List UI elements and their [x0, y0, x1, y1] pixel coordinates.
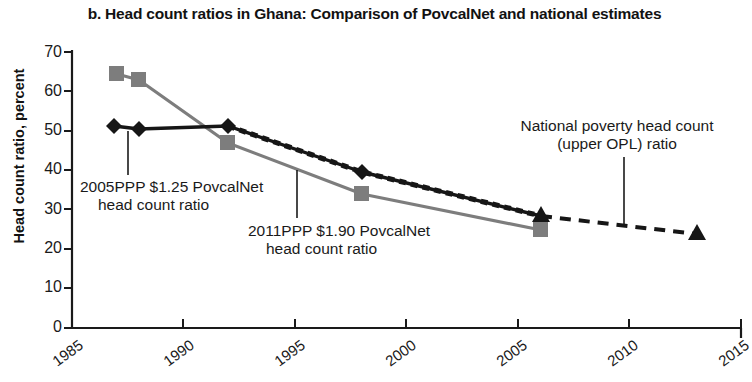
axis-lines — [72, 50, 741, 338]
data-point-marker — [106, 118, 122, 134]
y-axis-ticks — [64, 52, 72, 328]
data-point-marker — [533, 222, 548, 237]
x-axis-ticks — [72, 319, 741, 328]
data-point-marker — [220, 118, 236, 134]
series-national-poverty — [106, 118, 541, 216]
data-point-marker — [354, 164, 370, 180]
data-point-marker — [220, 135, 235, 150]
data-point-marker — [131, 121, 147, 137]
data-point-marker — [109, 66, 124, 81]
series-povcalnet-2005ppp — [109, 66, 548, 237]
data-point-marker — [354, 186, 369, 201]
data-point-marker — [131, 72, 146, 87]
series-national-poverty-projection — [532, 206, 706, 240]
data-point-marker — [688, 224, 706, 240]
